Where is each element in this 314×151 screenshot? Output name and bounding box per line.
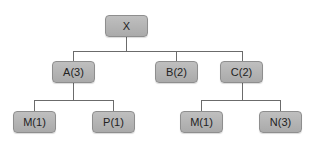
edge-root-stem	[126, 37, 127, 51]
edge-a-stem	[73, 83, 74, 100]
edge-to-c	[242, 51, 243, 61]
edge-to-m1	[34, 100, 35, 111]
node-a-m: M(1)	[13, 111, 56, 133]
edge-c-stem	[242, 83, 243, 100]
edge-a-bar	[34, 100, 114, 101]
node-a: A(3)	[52, 61, 95, 83]
node-root-x: X	[105, 15, 148, 37]
edge-to-n3	[280, 100, 281, 111]
node-b: B(2)	[155, 61, 198, 83]
edge-to-a	[73, 51, 74, 61]
node-a-p: P(1)	[92, 111, 135, 133]
node-c-n: N(3)	[259, 111, 302, 133]
edge-root-bar	[73, 51, 243, 52]
edge-to-b	[176, 51, 177, 61]
edge-to-m2	[201, 100, 202, 111]
node-c: C(2)	[220, 61, 263, 83]
edge-c-bar	[201, 100, 281, 101]
edge-to-p1	[113, 100, 114, 111]
node-c-m: M(1)	[180, 111, 223, 133]
